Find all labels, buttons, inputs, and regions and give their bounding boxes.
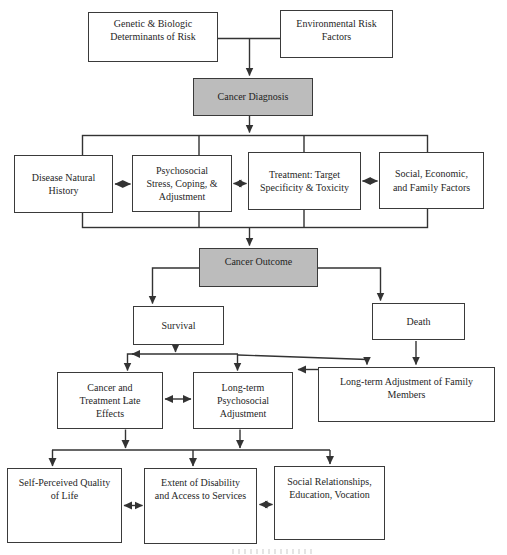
node-cancer-outcome-label: Cancer Outcome: [222, 255, 295, 268]
node-social-economic-family-label: Social, Economic, and Family Factors: [390, 167, 473, 193]
node-family-adjustment: Long-term Adjustment of Family Members: [318, 367, 495, 422]
node-environmental-risk-label: Environmental Risk Factors: [293, 17, 379, 43]
arrow-branch-to-late-effects: [128, 354, 135, 371]
node-genetic-determinants-label: Genetic & Biologic Determinants of Risk: [107, 17, 199, 43]
arrow-outcome-to-death: [318, 268, 381, 301]
node-extent-disability: Extent of Disability and Access to Servi…: [144, 468, 257, 544]
node-social-relationships-label: Social Relationships, Education, Vocatio…: [284, 475, 374, 501]
node-late-effects-label: Cancer and Treatment Late Effects: [76, 381, 143, 421]
node-genetic-determinants: Genetic & Biologic Determinants of Risk: [88, 12, 218, 62]
node-social-economic-family: Social, Economic, and Family Factors: [379, 152, 484, 209]
node-survival: Survival: [133, 306, 224, 345]
node-treatment-specificity: Treatment: Target Specificity & Toxicity: [248, 152, 361, 210]
node-social-relationships: Social Relationships, Education, Vocatio…: [274, 466, 385, 540]
node-late-effects: Cancer and Treatment Late Effects: [57, 372, 163, 429]
node-longterm-psychosocial-adjustment: Long-term Psychosocial Adjustment: [193, 372, 293, 429]
node-extent-disability-label: Extent of Disability and Access to Servi…: [152, 476, 249, 502]
node-disease-natural-history-label: Disease Natural History: [29, 171, 99, 197]
node-cancer-diagnosis-label: Cancer Diagnosis: [215, 90, 292, 103]
cropped-caption-fragment: [232, 549, 316, 554]
node-cancer-diagnosis: Cancer Diagnosis: [193, 78, 313, 116]
node-disease-natural-history: Disease Natural History: [14, 155, 113, 213]
node-self-perceived-qol: Self-Perceived Quality of Life: [7, 468, 122, 543]
arrow-outcome-to-survival: [153, 268, 200, 304]
node-self-perceived-qol-label: Self-Perceived Quality of Life: [16, 476, 113, 502]
node-environmental-risk: Environmental Risk Factors: [280, 10, 393, 58]
node-death: Death: [372, 303, 465, 340]
node-psychosocial-stress-label: Psychosocial Stress, Coping, & Adjustmen…: [143, 164, 220, 204]
arrow-branch-to-family: [238, 355, 367, 365]
node-survival-label: Survival: [159, 319, 199, 332]
node-psychosocial-stress: Psychosocial Stress, Coping, & Adjustmen…: [132, 155, 232, 212]
flowchart-canvas: Genetic & Biologic Determinants of Risk …: [0, 0, 507, 555]
node-family-adjustment-label: Long-term Adjustment of Family Members: [337, 375, 476, 401]
node-cancer-outcome: Cancer Outcome: [199, 248, 318, 287]
node-death-label: Death: [404, 315, 434, 328]
node-treatment-specificity-label: Treatment: Target Specificity & Toxicity: [257, 168, 352, 194]
node-longterm-psychosocial-adjustment-label: Long-term Psychosocial Adjustment: [214, 381, 272, 421]
